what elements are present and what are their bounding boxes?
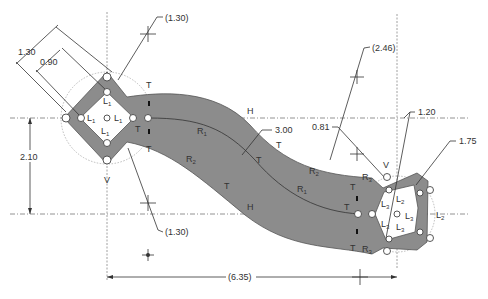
node[interactable] xyxy=(384,174,391,181)
horizontal-span-dimension: (6.35) xyxy=(107,269,397,285)
node[interactable] xyxy=(78,115,85,122)
label-tangent: T xyxy=(276,140,282,150)
dim-diamond-inner[interactable]: 0.90 xyxy=(40,57,58,67)
r2-ref-dimension: (2.46) xyxy=(330,43,396,160)
label-tangent: T xyxy=(350,243,356,253)
cad-sketch-canvas: 1.30 0.90 (1.30) (1.30) 2.10 (6.35) xyxy=(0,0,488,299)
node[interactable] xyxy=(427,235,434,242)
dim-pentagon-inner[interactable]: 1.20 xyxy=(418,107,436,117)
label-tangent: T xyxy=(256,155,262,165)
node[interactable] xyxy=(355,211,362,218)
label-r2: R2 xyxy=(309,166,320,177)
dim-pentagon-outer[interactable]: 1.75 xyxy=(459,136,477,146)
vertical-offset-dimension: 2.10 xyxy=(18,118,42,214)
node[interactable] xyxy=(130,115,137,122)
node[interactable] xyxy=(103,156,111,164)
label-vertical: V xyxy=(383,160,389,170)
dim-horizontal-span[interactable]: (6.35) xyxy=(228,272,252,282)
label-tangent: T xyxy=(146,144,152,154)
node[interactable] xyxy=(417,229,423,235)
node[interactable] xyxy=(104,89,111,96)
label-horizontal: H xyxy=(247,106,254,116)
node[interactable] xyxy=(417,190,423,196)
label-tangent: T xyxy=(135,124,141,134)
label-tangent: T xyxy=(224,181,230,191)
dim-r2-ref[interactable]: (2.46) xyxy=(372,43,396,53)
node[interactable] xyxy=(369,211,376,218)
label-tangent: T xyxy=(344,202,350,212)
node[interactable] xyxy=(103,73,111,81)
arc-offset-dimension: 0.81 xyxy=(312,122,385,178)
top-ref-dimension: (1.30) xyxy=(118,13,189,80)
node[interactable] xyxy=(427,187,434,194)
dim-diamond-outer[interactable]: 1.30 xyxy=(18,47,36,57)
label-tangent: T xyxy=(350,182,356,192)
dim-arm-width[interactable]: 3.00 xyxy=(275,125,293,135)
node[interactable] xyxy=(145,115,152,122)
dim-bottom-ref[interactable]: (1.30) xyxy=(165,227,189,237)
label-tangent: T xyxy=(146,80,152,90)
label-vertical: V xyxy=(104,175,110,185)
node[interactable] xyxy=(386,236,392,242)
label-horizontal: H xyxy=(247,202,254,212)
dim-vertical-offset[interactable]: 2.10 xyxy=(20,152,38,162)
dim-arc-offset[interactable]: 0.81 xyxy=(312,122,330,132)
node[interactable] xyxy=(386,187,392,193)
node[interactable] xyxy=(104,115,110,121)
label-r3: R3 xyxy=(362,172,373,183)
node[interactable] xyxy=(104,140,111,147)
node[interactable] xyxy=(62,114,70,122)
node[interactable] xyxy=(394,211,400,217)
loose-point xyxy=(142,249,154,261)
node[interactable] xyxy=(384,248,391,255)
label-l2: L2 xyxy=(436,210,445,221)
dim-top-ref[interactable]: (1.30) xyxy=(165,13,189,23)
